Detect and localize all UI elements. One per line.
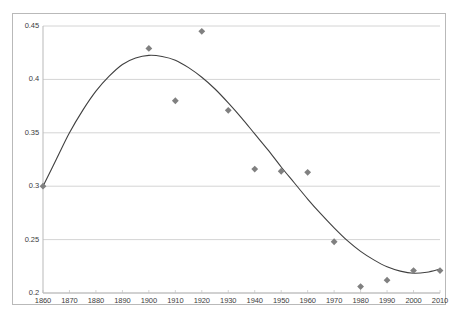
data-point-marker — [304, 169, 311, 176]
x-axis-tick-label: 1990 — [373, 296, 401, 305]
x-axis-tick-label: 2000 — [400, 296, 428, 305]
y-axis-tick-label: 0.3 — [13, 181, 39, 190]
chart-container: 0.20.250.30.350.40.45 186018701880189019… — [0, 0, 458, 319]
x-axis-tick-label: 1930 — [214, 296, 242, 305]
data-point-marker — [437, 267, 444, 274]
data-point-marker — [225, 107, 232, 114]
x-axis-tick-label: 1890 — [108, 296, 136, 305]
x-axis-tick-label: 1870 — [55, 296, 83, 305]
data-point-marker — [357, 283, 364, 290]
y-axis-tick-label: 0.4 — [13, 74, 39, 83]
data-point-marker — [384, 277, 391, 284]
gridlines — [43, 26, 440, 293]
data-point-marker — [198, 28, 205, 35]
data-point-marker — [40, 183, 47, 190]
x-axis-tick-label: 1940 — [241, 296, 269, 305]
x-axis-tick-label: 1880 — [82, 296, 110, 305]
chart-canvas — [0, 0, 458, 319]
data-point-marker — [172, 97, 179, 104]
trendline-path — [43, 55, 440, 273]
data-point-marker — [145, 45, 152, 52]
x-axis-tick-label: 1960 — [294, 296, 322, 305]
x-axis-tick-label: 2010 — [426, 296, 454, 305]
x-axis-tick-label: 1970 — [320, 296, 348, 305]
y-axis-tick-label: 0.25 — [13, 235, 39, 244]
y-axis-tick-label: 0.35 — [13, 128, 39, 137]
x-axis-tick-label: 1920 — [188, 296, 216, 305]
x-axis-tick-label: 1910 — [161, 296, 189, 305]
x-axis-tick-label: 1980 — [347, 296, 375, 305]
x-axis-tick-label: 1900 — [135, 296, 163, 305]
data-point-marker — [251, 166, 258, 173]
x-axis-tick-label: 1950 — [267, 296, 295, 305]
data-point-marker — [278, 168, 285, 175]
y-axis-tick-label: 0.45 — [13, 21, 39, 30]
x-axis-tick-label: 1860 — [29, 296, 57, 305]
data-point-markers — [40, 28, 444, 290]
